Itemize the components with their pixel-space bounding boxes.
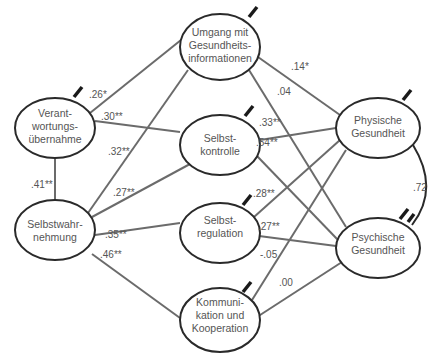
node-psychische-gesundheit: Psychische Gesundheit — [336, 218, 420, 278]
node-label: Gesundheit — [351, 244, 405, 256]
node-selbstregulation: Selbst- regulation — [180, 203, 260, 263]
node-label: Selbst- — [204, 132, 237, 144]
coef-physisch-psychisch: .72 — [413, 182, 427, 193]
node-label: nehmung — [33, 231, 77, 243]
coef-verant-umgang: .26* — [89, 89, 107, 100]
node-selbstkontrolle: Selbst- kontrolle — [180, 115, 260, 175]
coef-regulation-psychisch: .27** — [258, 221, 280, 232]
coef-wahr-regulation: .35** — [105, 229, 127, 240]
node-physische-gesundheit: Physische Gesundheit — [336, 98, 420, 158]
residual-psychisch-icon-1 — [400, 209, 408, 219]
coef-kontrolle-psychisch: .54** — [256, 137, 278, 148]
residual-kontrolle-icon — [245, 106, 253, 116]
edge-wahr-kontrolle — [92, 164, 190, 217]
coef-verant-kontrolle: .30** — [101, 111, 123, 122]
coef-kommunikation-psychisch: .00 — [279, 277, 293, 288]
residual-kommunikation-icon — [243, 282, 251, 292]
residual-physisch-icon — [403, 90, 411, 100]
coef-kommunikation-physisch: -.05 — [260, 249, 278, 260]
edge-verant-kontrolle — [95, 121, 180, 132]
node-label: Verant- — [38, 107, 72, 119]
node-label: Gesundheits- — [189, 39, 252, 51]
coef-kontrolle-physisch: .33** — [259, 117, 281, 128]
node-label: kation und — [196, 309, 245, 321]
node-label: Selbstwahr- — [27, 218, 83, 230]
edge-wahr-kommunikation — [92, 254, 180, 318]
node-label: Gesundheit — [351, 127, 405, 139]
node-label: Psychische — [351, 231, 404, 243]
coef-umgang-psychisch: .04 — [277, 86, 291, 97]
coef-umgang-physisch: .14* — [291, 61, 309, 72]
edge-verant-umgang — [90, 40, 181, 113]
coef-regulation-physisch: .28** — [253, 188, 275, 199]
node-label: Physische — [354, 114, 402, 126]
node-label: Kooperation — [192, 322, 249, 334]
node-label: Selbst- — [204, 214, 237, 226]
node-selbstwahrnehmung: Selbstwahr- nehmung — [15, 200, 95, 260]
coef-wahr-verant: .41** — [31, 179, 53, 190]
node-kommunikation-und-kooperation: Kommuni- kation und Kooperation — [180, 288, 260, 352]
residual-regulation-icon — [243, 195, 251, 205]
coef-wahr-kommunikation: .46** — [100, 249, 122, 260]
node-label: regulation — [197, 227, 243, 239]
residual-psychisch-icon-2 — [408, 214, 414, 222]
node-label: Umgang mit — [192, 26, 249, 38]
residual-verant-icon — [74, 87, 82, 97]
residual-umgang-icon — [249, 7, 257, 17]
coef-wahr-kontrolle: .27** — [113, 187, 135, 198]
node-verantwortungsuebernahme: Verant- wortungs- übernahme — [15, 98, 95, 158]
node-umgang-mit-gesundheitsinformationen: Umgang mit Gesundheits- informationen — [180, 14, 260, 80]
edge-regulation-psychisch — [259, 236, 336, 246]
node-label: kontrolle — [200, 145, 240, 157]
node-label: Kommuni- — [196, 296, 244, 308]
sem-path-diagram: Verant- wortungs- übernahme Selbstwahr- … — [0, 0, 440, 353]
node-label: wortungs- — [31, 120, 79, 132]
coef-wahr-umgang: .32** — [108, 146, 130, 157]
node-label: informationen — [188, 52, 252, 64]
node-label: übernahme — [28, 133, 81, 145]
